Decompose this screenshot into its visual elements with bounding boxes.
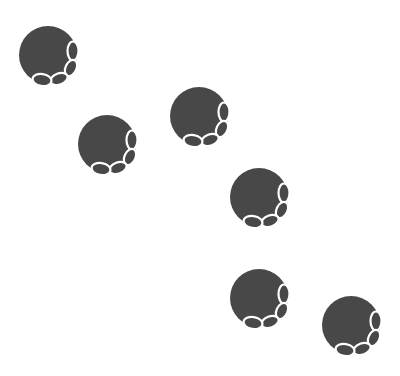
- bead-circle-icon: [322, 296, 383, 357]
- figures-layer: [19, 26, 383, 357]
- bead-circle-icon: [230, 168, 291, 229]
- bead-circle-icon: [170, 87, 231, 148]
- scene: [0, 0, 400, 376]
- canvas: [0, 0, 400, 376]
- bead-circle-icon: [19, 26, 80, 87]
- bead-circle-icon: [78, 115, 139, 176]
- bead-circle-icon: [230, 269, 291, 330]
